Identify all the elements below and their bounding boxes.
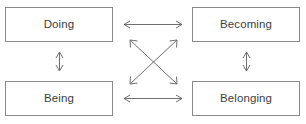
- node-doing[interactable]: Doing: [5, 7, 113, 42]
- diagram-canvas: Doing Becoming Being Belonging: [0, 0, 306, 124]
- node-belonging[interactable]: Belonging: [192, 81, 300, 116]
- connector-doing-belonging: [130, 40, 177, 84]
- node-being[interactable]: Being: [5, 81, 113, 116]
- node-belonging-label: Belonging: [220, 93, 272, 105]
- node-doing-label: Doing: [44, 19, 75, 31]
- node-becoming-label: Becoming: [220, 19, 272, 31]
- connector-doing-becoming: [124, 21, 182, 28]
- connector-becoming-being: [130, 40, 177, 84]
- connector-doing-being: [56, 52, 63, 71]
- node-being-label: Being: [44, 93, 74, 105]
- node-becoming[interactable]: Becoming: [192, 7, 300, 42]
- connector-being-belonging: [124, 95, 182, 102]
- connector-becoming-belonging: [243, 52, 250, 71]
